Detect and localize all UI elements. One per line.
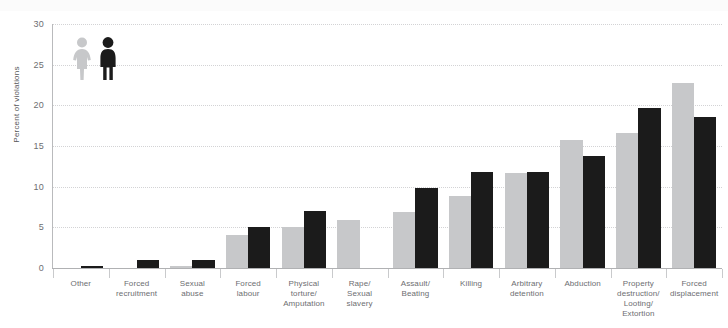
x-axis-separator xyxy=(109,269,110,278)
x-axis-label: Physicaltorture/Amputation xyxy=(276,279,332,309)
x-axis-label: Abduction xyxy=(555,279,611,289)
x-axis-label-line: Physical xyxy=(276,279,332,289)
x-axis-separator xyxy=(443,269,444,278)
bar-female xyxy=(393,212,415,268)
x-axis-label-line: Arbitrary xyxy=(499,279,555,289)
y-axis-tick-label: 25 xyxy=(22,60,44,70)
bar-male xyxy=(137,260,159,268)
x-axis-separator xyxy=(611,269,612,278)
x-axis-separator xyxy=(220,269,221,278)
bar-female xyxy=(505,173,527,268)
x-axis-separator xyxy=(555,269,556,278)
bar-male xyxy=(192,260,214,268)
bar-male xyxy=(527,172,549,268)
bar-group xyxy=(443,24,499,268)
bar-female xyxy=(449,196,471,268)
bar-group xyxy=(555,24,611,268)
x-axis-label-line: Amputation xyxy=(276,299,332,309)
x-axis-separator xyxy=(722,269,723,278)
x-axis-label-line: Sexual xyxy=(332,289,388,299)
x-axis-label-line: Other xyxy=(53,279,109,289)
y-axis-tick-label: 0 xyxy=(22,263,44,273)
x-axis-label-line: detention xyxy=(499,289,555,299)
legend-pictograms xyxy=(70,36,126,82)
y-axis-tick-label: 30 xyxy=(22,19,44,29)
x-axis-label-line: abuse xyxy=(165,289,221,299)
female-pictogram xyxy=(73,38,91,81)
x-axis-label-line: destruction/ xyxy=(611,289,667,299)
bar-group xyxy=(611,24,667,268)
bar-male xyxy=(248,227,270,268)
x-axis-label: Forcedlabour xyxy=(220,279,276,299)
bar-group xyxy=(220,24,276,268)
x-axis-label-line: Assault/ xyxy=(388,279,444,289)
x-axis-label-line: recruitment xyxy=(109,289,165,299)
x-axis-separator xyxy=(332,269,333,278)
x-axis-label-line: Sexual xyxy=(165,279,221,289)
x-axis-separator xyxy=(165,269,166,278)
bar-group xyxy=(276,24,332,268)
bar-female xyxy=(282,227,304,268)
x-axis-label-line: Extortion xyxy=(611,309,667,319)
bar-chart: Percent of violations 051015202530 Other… xyxy=(0,0,728,328)
plot-area xyxy=(53,24,722,268)
y-axis-tick-label: 15 xyxy=(22,141,44,151)
x-axis-label-line: torture/ xyxy=(276,289,332,299)
x-axis-label-line: displacement xyxy=(666,289,722,299)
bar-group xyxy=(332,24,388,268)
top-banner xyxy=(0,0,728,11)
bar-male xyxy=(81,266,103,268)
bar-group xyxy=(388,24,444,268)
bar-female xyxy=(226,235,248,268)
x-axis-label-line: slavery xyxy=(332,299,388,309)
bar-group xyxy=(165,24,221,268)
bar-female xyxy=(170,266,192,268)
male-pictogram xyxy=(100,37,115,80)
x-axis-separator xyxy=(666,269,667,278)
x-axis-separator xyxy=(499,269,500,278)
x-axis-label-line: Beating xyxy=(388,289,444,299)
x-axis-label-line: Forced xyxy=(220,279,276,289)
x-axis-separator xyxy=(276,269,277,278)
y-axis-tick-label: 10 xyxy=(22,182,44,192)
x-axis-label: Forcedrecruitment xyxy=(109,279,165,299)
bar-male xyxy=(583,156,605,268)
x-axis-separator xyxy=(53,269,54,278)
y-axis-tick-label: 5 xyxy=(22,222,44,232)
bar-male xyxy=(694,117,716,268)
bar-male xyxy=(471,172,493,268)
bar-female xyxy=(337,220,359,268)
x-axis-label-line: Abduction xyxy=(555,279,611,289)
x-axis-label: Assault/Beating xyxy=(388,279,444,299)
x-axis-label: Killing xyxy=(443,279,499,289)
x-axis-label-line: Forced xyxy=(109,279,165,289)
x-axis-label-line: Forced xyxy=(666,279,722,289)
bar-female xyxy=(672,83,694,268)
x-axis-label-line: Rape/ xyxy=(332,279,388,289)
x-axis-separator xyxy=(388,269,389,278)
bar-male xyxy=(638,108,660,268)
x-axis-label-line: labour xyxy=(220,289,276,299)
bar-group xyxy=(666,24,722,268)
x-axis-label: Arbitrarydetention xyxy=(499,279,555,299)
bar-male xyxy=(415,188,437,268)
y-axis-tick-label: 20 xyxy=(22,100,44,110)
x-axis-label: Forceddisplacement xyxy=(666,279,722,299)
x-axis-label: Rape/Sexualslavery xyxy=(332,279,388,309)
x-axis-label-line: Property xyxy=(611,279,667,289)
x-axis-label: Sexualabuse xyxy=(165,279,221,299)
x-axis-label: Propertydestruction/Looting/Extortion xyxy=(611,279,667,319)
bar-male xyxy=(304,211,326,268)
bar-group xyxy=(499,24,555,268)
y-axis-title: Percent of violations xyxy=(12,45,21,165)
x-axis-label: Other xyxy=(53,279,109,289)
bar-female xyxy=(560,140,582,268)
x-axis-label-line: Looting/ xyxy=(611,299,667,309)
bar-female xyxy=(616,133,638,268)
x-axis-label-line: Killing xyxy=(443,279,499,289)
legend xyxy=(70,36,126,82)
